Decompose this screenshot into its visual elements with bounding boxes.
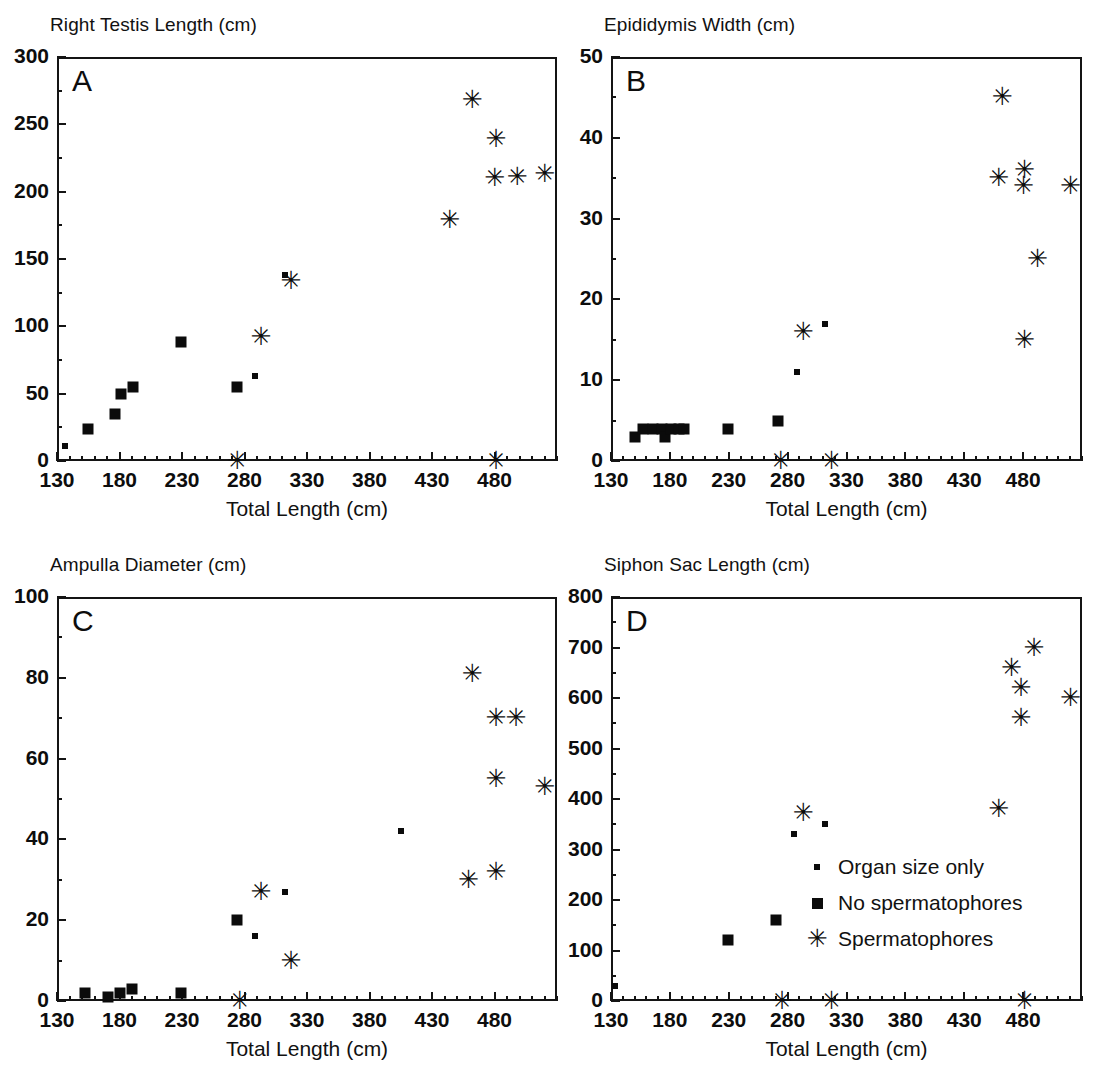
x-tick-minor bbox=[928, 456, 930, 461]
x-tick-minor bbox=[692, 996, 694, 1001]
x-tick-minor bbox=[1069, 996, 1071, 1001]
y-tick-major bbox=[611, 798, 620, 800]
x-tick-minor bbox=[256, 996, 258, 1001]
y-tick-minor bbox=[611, 96, 616, 98]
x-tick-major bbox=[963, 452, 965, 461]
x-tick-minor bbox=[106, 456, 108, 461]
x-tick-minor bbox=[344, 456, 346, 461]
data-point-square bbox=[232, 381, 243, 392]
data-point-star: ✳ bbox=[771, 451, 791, 471]
x-tick-minor bbox=[144, 456, 146, 461]
dot-icon bbox=[814, 864, 820, 870]
y-tick-label: 20 bbox=[533, 286, 603, 310]
legend-item-star: ✳Spermatophores bbox=[800, 924, 993, 954]
x-tick-minor bbox=[419, 456, 421, 461]
x-tick-minor bbox=[916, 456, 918, 461]
x-tick-minor bbox=[269, 456, 271, 461]
data-point-dot bbox=[62, 443, 68, 449]
data-point-star: ✳ bbox=[772, 991, 792, 1011]
data-point-dot bbox=[252, 373, 258, 379]
x-tick-minor bbox=[987, 996, 989, 1001]
y-tick-major bbox=[611, 298, 620, 300]
y-tick-minor bbox=[611, 420, 616, 422]
x-tick-major bbox=[431, 452, 433, 461]
data-point-star: ✳ bbox=[1013, 176, 1033, 196]
y-tick-major bbox=[57, 1000, 66, 1002]
data-point-square bbox=[175, 987, 186, 998]
y-tick-minor bbox=[57, 879, 62, 881]
data-point-star: ✳ bbox=[486, 769, 506, 789]
y-tick-major bbox=[611, 899, 620, 901]
x-tick-minor bbox=[657, 996, 659, 1001]
x-tick-major bbox=[306, 452, 308, 461]
x-axis-title-d: Total Length (cm) bbox=[611, 1037, 1082, 1061]
star-icon: ✳ bbox=[807, 929, 827, 949]
x-tick-major bbox=[431, 992, 433, 1001]
x-tick-minor bbox=[810, 456, 812, 461]
x-tick-minor bbox=[69, 456, 71, 461]
x-tick-minor bbox=[704, 456, 706, 461]
x-tick-major bbox=[904, 992, 906, 1001]
y-tick-label: 300 bbox=[533, 837, 603, 861]
x-tick-minor bbox=[622, 456, 624, 461]
data-point-star: ✳ bbox=[227, 451, 247, 471]
legend-label: No spermatophores bbox=[834, 891, 1022, 915]
x-tick-major bbox=[846, 452, 848, 461]
x-tick-minor bbox=[481, 456, 483, 461]
data-point-star: ✳ bbox=[485, 168, 505, 188]
x-tick-minor bbox=[751, 996, 753, 1001]
y-tick-label: 40 bbox=[533, 125, 603, 149]
y-tick-label: 400 bbox=[533, 786, 603, 810]
x-tick-minor bbox=[999, 456, 1001, 461]
square-icon bbox=[812, 898, 823, 909]
x-tick-minor bbox=[1057, 456, 1059, 461]
x-tick-minor bbox=[987, 456, 989, 461]
x-tick-minor bbox=[645, 996, 647, 1001]
data-point-star: ✳ bbox=[486, 708, 506, 728]
y-tick-major bbox=[611, 379, 620, 381]
y-tick-minor bbox=[611, 177, 616, 179]
x-tick-minor bbox=[692, 456, 694, 461]
x-tick-minor bbox=[506, 996, 508, 1001]
data-point-square bbox=[175, 337, 186, 348]
panel-title-d: Siphon Sac Length (cm) bbox=[604, 554, 810, 576]
data-point-square bbox=[722, 423, 733, 434]
x-tick-minor bbox=[857, 456, 859, 461]
y-tick-label: 100 bbox=[0, 584, 49, 608]
y-tick-major bbox=[611, 647, 620, 649]
y-tick-major bbox=[57, 677, 66, 679]
x-tick-minor bbox=[256, 456, 258, 461]
y-tick-minor bbox=[57, 157, 62, 159]
x-tick-minor bbox=[344, 996, 346, 1001]
x-tick-minor bbox=[319, 996, 321, 1001]
x-tick-minor bbox=[356, 456, 358, 461]
panel-letter-b: B bbox=[626, 64, 646, 98]
x-tick-minor bbox=[1057, 996, 1059, 1001]
x-tick-minor bbox=[194, 456, 196, 461]
x-tick-minor bbox=[456, 456, 458, 461]
data-point-dot bbox=[822, 321, 828, 327]
x-tick-minor bbox=[469, 456, 471, 461]
legend-label: Organ size only bbox=[834, 855, 984, 879]
x-axis-title-b: Total Length (cm) bbox=[611, 497, 1082, 521]
x-tick-minor bbox=[681, 456, 683, 461]
x-tick-major bbox=[181, 452, 183, 461]
x-tick-minor bbox=[893, 996, 895, 1001]
panel-letter-d: D bbox=[626, 604, 648, 638]
x-tick-label: 480 bbox=[983, 468, 1063, 492]
x-tick-minor bbox=[975, 456, 977, 461]
x-tick-minor bbox=[94, 996, 96, 1001]
x-tick-minor bbox=[206, 996, 208, 1001]
y-tick-minor bbox=[611, 773, 616, 775]
y-tick-label: 10 bbox=[533, 367, 603, 391]
data-point-dot bbox=[252, 933, 258, 939]
y-tick-minor bbox=[57, 359, 62, 361]
data-point-star: ✳ bbox=[1014, 330, 1034, 350]
x-tick-minor bbox=[869, 996, 871, 1001]
data-point-star: ✳ bbox=[1060, 688, 1080, 708]
x-tick-minor bbox=[406, 996, 408, 1001]
x-tick-minor bbox=[893, 456, 895, 461]
y-tick-minor bbox=[611, 672, 616, 674]
x-tick-minor bbox=[356, 996, 358, 1001]
x-tick-minor bbox=[1081, 996, 1083, 1001]
